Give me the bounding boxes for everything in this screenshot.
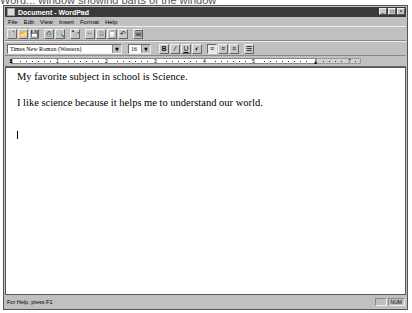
align-left-button[interactable]: ≡ bbox=[207, 44, 217, 54]
undo-arrow-icon: ↶ bbox=[120, 30, 126, 37]
document-area[interactable]: My favorite subject in school is Science… bbox=[5, 67, 406, 295]
binoculars-icon: 🔭 bbox=[71, 30, 80, 37]
ruler[interactable]: 1 2 3 4 5 7 ⧗ ▲ bbox=[5, 57, 406, 67]
maximize-button[interactable]: □ bbox=[388, 8, 396, 15]
menu-bar: File Edit View Insert Format Help bbox=[5, 17, 406, 26]
ruler-text-area: 1 2 3 4 5 bbox=[11, 58, 316, 64]
chevron-down-icon[interactable]: ▼ bbox=[112, 45, 121, 53]
status-panel-empty bbox=[375, 298, 387, 306]
bullet-list-icon: ☰ bbox=[246, 45, 252, 53]
font-name-value: Times New Roman (Western) bbox=[10, 46, 81, 52]
date-time-icon: 🗓 bbox=[134, 30, 143, 37]
document-line-2: I like science because it helps me to un… bbox=[17, 97, 263, 108]
color-button[interactable]: ◐ bbox=[192, 44, 202, 54]
scissors-icon: ✂ bbox=[87, 30, 93, 37]
bullets-button[interactable]: ☰ bbox=[244, 44, 254, 54]
color-palette-icon: ◐ bbox=[195, 45, 199, 52]
format-bar: Times New Roman (Western) ▼ 16 ▼ B / U ◐… bbox=[5, 41, 406, 56]
italic-button[interactable]: / bbox=[170, 44, 180, 54]
minimize-button[interactable]: _ bbox=[379, 8, 387, 15]
cut-button[interactable]: ✂ bbox=[85, 29, 95, 39]
right-indent-marker[interactable]: ▲ bbox=[313, 59, 318, 65]
underline-button[interactable]: U bbox=[181, 44, 191, 54]
copy-icon: ⧉ bbox=[99, 30, 104, 37]
document-line-1: My favorite subject in school is Science… bbox=[17, 71, 188, 82]
app-icon[interactable] bbox=[7, 8, 15, 16]
window-title: Document - WordPad bbox=[18, 9, 89, 16]
menu-format[interactable]: Format bbox=[77, 19, 102, 25]
status-bar: For Help, press F1 NUM bbox=[5, 295, 406, 308]
ruler-number: 7 bbox=[348, 58, 351, 64]
save-disk-icon: 💾 bbox=[30, 30, 39, 37]
align-right-icon: ≡ bbox=[232, 45, 236, 52]
align-center-icon: ≡ bbox=[221, 45, 225, 52]
align-right-button[interactable]: ≡ bbox=[229, 44, 239, 54]
printer-icon: ⎙ bbox=[46, 30, 52, 37]
date-time-button[interactable]: 🗓 bbox=[133, 29, 143, 39]
bold-icon: B bbox=[161, 45, 166, 52]
new-document-icon: 🗋 bbox=[9, 30, 15, 37]
status-help-text: For Help, press F1 bbox=[7, 299, 375, 305]
open-folder-icon: 📂 bbox=[19, 30, 28, 37]
title-bar[interactable]: Document - WordPad _ □ × bbox=[5, 7, 406, 17]
menu-view[interactable]: View bbox=[37, 19, 56, 25]
wordpad-window: Document - WordPad _ □ × File Edit View … bbox=[3, 5, 408, 310]
ruler-number: 3 bbox=[154, 58, 157, 64]
new-button[interactable]: 🗋 bbox=[7, 29, 17, 39]
font-name-select[interactable]: Times New Roman (Western) ▼ bbox=[7, 44, 122, 54]
print-preview-button[interactable]: 🔍 bbox=[55, 29, 65, 39]
left-indent-marker[interactable]: ⧗ bbox=[8, 57, 13, 65]
undo-button[interactable]: ↶ bbox=[118, 29, 128, 39]
find-button[interactable]: 🔭 bbox=[70, 29, 80, 39]
close-button[interactable]: × bbox=[397, 8, 405, 15]
copy-button[interactable]: ⧉ bbox=[96, 29, 106, 39]
bold-button[interactable]: B bbox=[159, 44, 169, 54]
font-size-select[interactable]: 16 ▼ bbox=[128, 44, 151, 54]
open-button[interactable]: 📂 bbox=[18, 29, 28, 39]
menu-help[interactable]: Help bbox=[102, 19, 120, 25]
align-left-icon: ≡ bbox=[210, 45, 214, 52]
italic-icon: / bbox=[174, 45, 176, 52]
ruler-number: 2 bbox=[105, 58, 108, 64]
clipboard-icon: 📋 bbox=[108, 30, 117, 37]
ruler-margin-area: 7 bbox=[316, 58, 361, 64]
standard-toolbar: 🗋 📂 💾 ⎙ 🔍 🔭 ✂ ⧉ 📋 ↶ 🗓 bbox=[5, 26, 406, 41]
print-button[interactable]: ⎙ bbox=[44, 29, 54, 39]
align-center-button[interactable]: ≡ bbox=[218, 44, 228, 54]
save-button[interactable]: 💾 bbox=[29, 29, 39, 39]
underline-icon: U bbox=[183, 45, 188, 52]
ruler-number: 1 bbox=[56, 58, 59, 64]
ruler-number: 4 bbox=[203, 58, 206, 64]
num-lock-indicator: NUM bbox=[388, 298, 405, 306]
menu-insert[interactable]: Insert bbox=[56, 19, 77, 25]
menu-file[interactable]: File bbox=[5, 19, 21, 25]
chevron-down-icon[interactable]: ▼ bbox=[141, 45, 150, 53]
menu-edit[interactable]: Edit bbox=[21, 19, 37, 25]
paste-button[interactable]: 📋 bbox=[107, 29, 117, 39]
text-cursor bbox=[17, 131, 18, 139]
ruler-number: 5 bbox=[252, 58, 255, 64]
font-size-value: 16 bbox=[131, 46, 137, 52]
print-preview-icon: 🔍 bbox=[56, 30, 65, 37]
caption-text: Word... window showing parts of the wind… bbox=[0, 0, 412, 4]
